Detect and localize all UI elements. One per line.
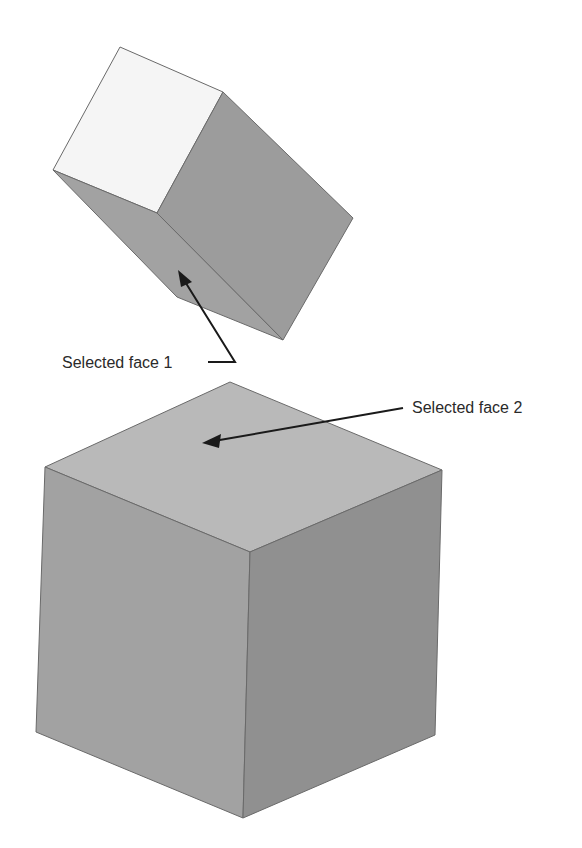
small-cube — [53, 47, 353, 340]
diagram-canvas: Selected face 1 Selected face 2 — [0, 0, 582, 848]
large-cube — [36, 382, 442, 818]
label-selected-face-2: Selected face 2 — [412, 399, 522, 416]
label-selected-face-1: Selected face 1 — [62, 354, 172, 371]
